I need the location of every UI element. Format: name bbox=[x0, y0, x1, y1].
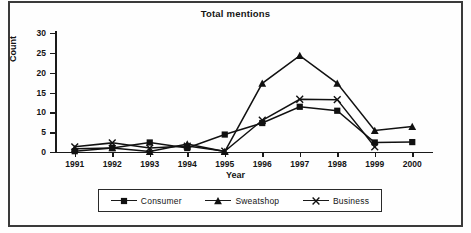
y-axis-tick-label: 10 bbox=[0, 107, 46, 117]
chart-legend: ConsumerSweatshopBusiness bbox=[98, 189, 382, 212]
x-axis-tick bbox=[112, 152, 113, 157]
x-axis-tick-label: 1991 bbox=[58, 159, 92, 169]
x-axis-tick bbox=[375, 152, 376, 157]
page-rule-top bbox=[8, 1, 463, 3]
series-business bbox=[71, 96, 378, 155]
marker-square bbox=[409, 139, 415, 145]
x-axis-tick-label: 1992 bbox=[95, 159, 129, 169]
marker-square bbox=[121, 197, 127, 203]
x-axis-tick-label: 1993 bbox=[133, 159, 167, 169]
page-rule-bottom bbox=[8, 225, 463, 227]
x-axis-tick bbox=[262, 152, 263, 157]
marker-square bbox=[222, 131, 228, 137]
y-axis-tick-label: 5 bbox=[0, 127, 46, 137]
legend-swatch-triangle-icon bbox=[205, 196, 231, 206]
x-axis-tick bbox=[412, 152, 413, 157]
legend-entry-consumer[interactable]: Consumer bbox=[111, 196, 182, 206]
series-line bbox=[75, 99, 375, 151]
x-axis-tick-label: 1998 bbox=[320, 159, 354, 169]
y-axis-tick bbox=[50, 152, 56, 153]
legend-entry-business[interactable]: Business bbox=[303, 196, 369, 206]
marker-square bbox=[147, 139, 153, 145]
legend-entry-sweatshop[interactable]: Sweatshop bbox=[205, 196, 279, 206]
x-axis-tick-label: 1994 bbox=[170, 159, 204, 169]
x-axis-tick-label: 2000 bbox=[395, 159, 429, 169]
x-axis-tick-label: 1996 bbox=[245, 159, 279, 169]
chart-figure: Total mentions Count Year 051015202530 1… bbox=[0, 0, 471, 233]
series-line bbox=[75, 56, 413, 152]
legend-swatch-x-icon bbox=[303, 196, 329, 206]
marker-square bbox=[297, 104, 303, 110]
x-axis-tick-label: 1999 bbox=[358, 159, 392, 169]
y-axis-tick-label: 30 bbox=[0, 28, 46, 38]
x-axis-tick-label: 1995 bbox=[208, 159, 242, 169]
marker-triangle bbox=[215, 197, 223, 204]
y-axis-tick-label: 0 bbox=[0, 147, 46, 157]
marker-x bbox=[313, 197, 320, 204]
plot-area bbox=[56, 33, 431, 152]
x-axis-title: Year bbox=[0, 170, 471, 180]
legend-label: Business bbox=[333, 196, 369, 206]
series-consumer bbox=[72, 104, 416, 155]
series-sweatshop bbox=[71, 52, 416, 155]
x-axis-tick bbox=[337, 152, 338, 157]
x-axis-tick bbox=[300, 152, 301, 157]
x-axis-tick bbox=[187, 152, 188, 157]
series-layer bbox=[56, 33, 431, 152]
chart-title: Total mentions bbox=[0, 8, 471, 19]
legend-label: Sweatshop bbox=[235, 196, 279, 206]
y-axis-tick-label: 15 bbox=[0, 88, 46, 98]
marker-triangle bbox=[296, 52, 304, 59]
legend-swatch-square-icon bbox=[111, 196, 137, 206]
y-axis-tick-label: 25 bbox=[0, 48, 46, 58]
y-axis-tick-label: 20 bbox=[0, 68, 46, 78]
legend-label: Consumer bbox=[141, 196, 182, 206]
marker-square bbox=[334, 108, 340, 114]
x-axis-tick-label: 1997 bbox=[283, 159, 317, 169]
page-rule-right bbox=[461, 1, 463, 227]
